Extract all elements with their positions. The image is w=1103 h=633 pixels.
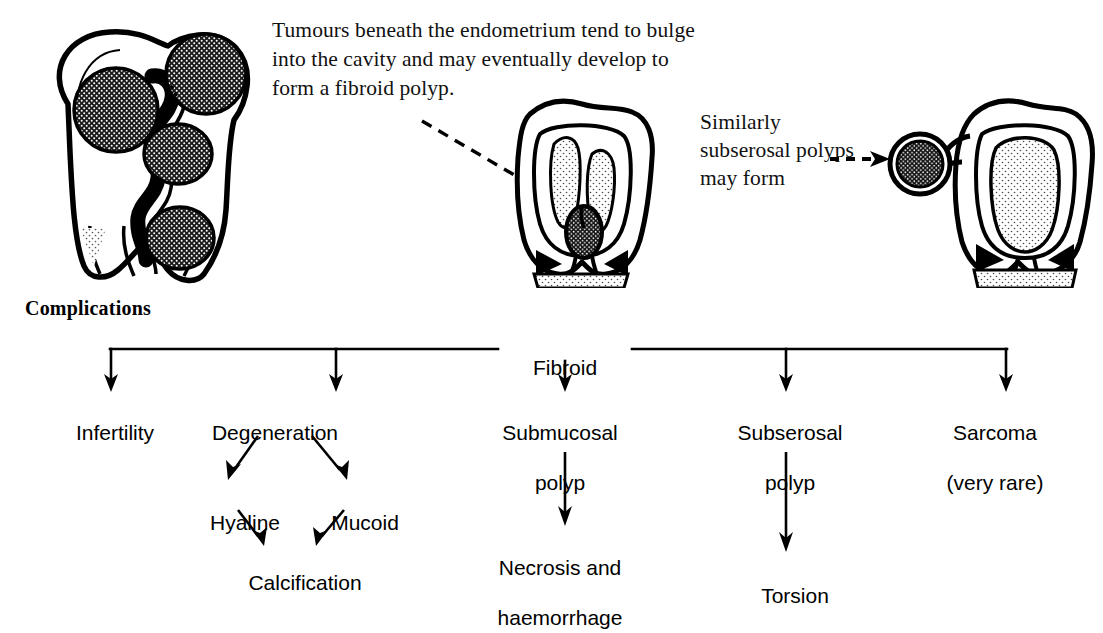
flow-node-fibroid: Fibroid [505, 330, 625, 405]
flow-node-infertility-label: Infertility [45, 420, 185, 445]
flow-node-degeneration: Degeneration [175, 395, 375, 470]
flow-node-hyaline-label: Hyaline [180, 510, 310, 535]
flow-node-fibroid-label: Fibroid [505, 355, 625, 380]
submucosal-polyp-caption: Tumours beneath the endometrium tend to … [272, 16, 702, 103]
uterus-sagittal-subserosal-svg [878, 92, 1103, 288]
uterus-coronal-svg [28, 12, 264, 288]
flow-node-submucosal-line1: Submucosal [460, 420, 660, 445]
flow-node-torsion-label: Torsion [700, 583, 890, 608]
uterus-sagittal-submucosal-svg [478, 92, 684, 288]
flow-node-submucosal-line2: polyp [460, 470, 660, 495]
flow-node-degeneration-label: Degeneration [175, 420, 375, 445]
flow-node-mucoid-label: Mucoid [300, 510, 430, 535]
complications-flowchart: Fibroid Infertility Degeneration Submuco… [0, 330, 1103, 599]
flow-node-subserosal-line2: polyp [690, 470, 890, 495]
flow-node-necrosis-haemorrhage: Necrosis and haemorrhage [450, 530, 670, 633]
flow-node-sarcoma: Sarcoma (very rare) [900, 395, 1090, 520]
flow-node-calcification-label: Calcification [180, 570, 430, 595]
flow-node-torsion: Torsion [700, 558, 890, 633]
uterus-sagittal-submucosal-polyp-illustration [478, 92, 684, 288]
flow-node-infertility: Infertility [45, 395, 185, 470]
flow-node-sarcoma-line1: Sarcoma [900, 420, 1090, 445]
flow-node-sarcoma-line2: (very rare) [900, 470, 1090, 495]
flow-node-subserosal-line1: Subserosal [690, 420, 890, 445]
page-title: Complications [25, 297, 151, 320]
flow-node-necrosis-line2: haemorrhage [450, 605, 670, 630]
flow-node-subserosal-polyp: Subserosal polyp [690, 395, 890, 520]
flow-node-calcification: Calcification [180, 545, 430, 620]
flow-node-necrosis-line1: Necrosis and [450, 555, 670, 580]
uterus-coronal-multiple-fibroids-illustration [28, 12, 264, 288]
flow-node-submucosal-polyp: Submucosal polyp [460, 395, 660, 520]
uterus-sagittal-subserosal-polyp-illustration [878, 92, 1103, 288]
